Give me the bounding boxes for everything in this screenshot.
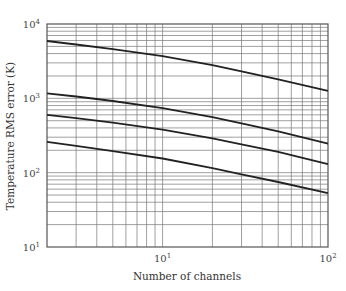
x-tick-label: 102 bbox=[319, 252, 336, 264]
y-tick-label: 103 bbox=[23, 92, 40, 104]
grid-lines bbox=[47, 24, 328, 247]
data-series bbox=[47, 41, 328, 193]
series-line-2 bbox=[47, 93, 328, 143]
x-tick-label: 101 bbox=[154, 252, 171, 264]
series-line-4 bbox=[47, 142, 328, 193]
y-tick-label: 102 bbox=[23, 167, 40, 179]
x-axis-label: Number of channels bbox=[133, 270, 241, 282]
x-tick-labels: 101102 bbox=[154, 252, 337, 264]
y-tick-label: 101 bbox=[23, 241, 40, 253]
series-line-1 bbox=[47, 41, 328, 91]
y-tick-label: 104 bbox=[23, 18, 41, 30]
y-tick-labels: 101102103104 bbox=[23, 18, 41, 253]
plot-frame bbox=[47, 24, 328, 247]
series-line-3 bbox=[47, 115, 328, 164]
y-axis-label: Temperature RMS error (K) bbox=[4, 62, 16, 210]
chart: 101102103104 101102 Number of channels T… bbox=[0, 0, 346, 291]
